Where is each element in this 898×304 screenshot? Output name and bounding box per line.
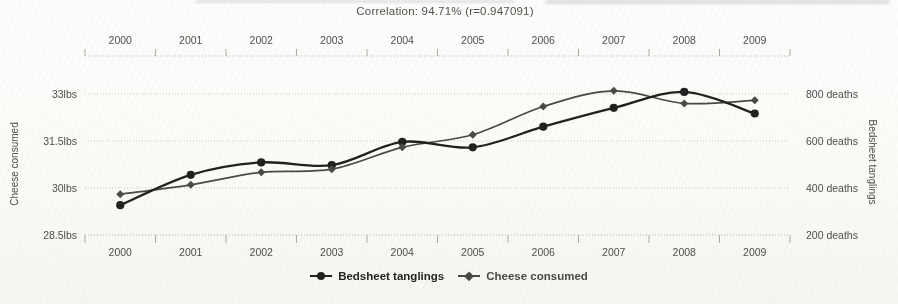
left-axis-title: Cheese consumed	[9, 122, 20, 205]
left-axis-tick-label: 28.5lbs	[43, 229, 77, 241]
x-tick-label-top: 2007	[602, 34, 626, 46]
data-point-diamond	[116, 190, 124, 198]
chart-legend: Bedsheet tanglings Cheese consumed	[0, 270, 898, 282]
x-tick-label-bottom: 2006	[532, 246, 556, 258]
diamond-marker-icon	[458, 271, 480, 281]
right-axis-tick-label: 600 deaths	[806, 135, 858, 147]
data-point-circle	[187, 171, 195, 179]
data-point-diamond	[680, 99, 688, 107]
right-axis-tick-label: 400 deaths	[806, 182, 858, 194]
x-tick-label-bottom: 2007	[602, 246, 626, 258]
x-tick-label-top: 2008	[673, 34, 697, 46]
left-axis-tick-label: 33lbs	[52, 88, 77, 100]
data-point-diamond	[257, 168, 265, 176]
x-tick-label-bottom: 2004	[391, 246, 415, 258]
x-tick-label-bottom: 2008	[673, 246, 697, 258]
x-tick-label-top: 2006	[532, 34, 556, 46]
left-axis-tick-label: 31.5lbs	[43, 135, 77, 147]
series-line-cheese-consumed	[120, 91, 755, 194]
data-point-circle	[610, 104, 618, 112]
circle-marker-icon	[310, 271, 332, 281]
chart-photo: Correlation: 94.71% (r=0.947091) 2000200…	[0, 0, 898, 304]
x-tick-label-top: 2005	[461, 34, 485, 46]
x-tick-label-top: 2001	[179, 34, 203, 46]
x-tick-label-top: 2003	[320, 34, 344, 46]
correlation-line-chart: 2000200020012001200220022003200320042004…	[0, 0, 898, 304]
series-line-bedsheet-tanglings	[120, 92, 755, 205]
x-tick-label-bottom: 2001	[179, 246, 203, 258]
x-tick-label-bottom: 2003	[320, 246, 344, 258]
legend-item-bedsheet-tanglings: Bedsheet tanglings	[310, 270, 444, 282]
legend-label: Cheese consumed	[486, 270, 588, 282]
legend-label: Bedsheet tanglings	[338, 270, 444, 282]
legend-item-cheese-consumed: Cheese consumed	[458, 270, 588, 282]
x-tick-label-top: 2002	[250, 34, 274, 46]
data-point-circle	[751, 109, 759, 117]
data-point-circle	[257, 158, 265, 166]
data-point-circle	[680, 88, 688, 96]
data-point-diamond	[469, 131, 477, 139]
x-tick-label-top: 2009	[743, 34, 767, 46]
data-point-circle	[469, 143, 477, 151]
right-axis-tick-label: 800 deaths	[806, 88, 858, 100]
x-tick-label-bottom: 2002	[250, 246, 274, 258]
x-tick-label-top: 2000	[109, 34, 133, 46]
left-axis-tick-label: 30lbs	[52, 182, 77, 194]
data-point-circle	[539, 123, 547, 131]
data-point-diamond	[539, 103, 547, 111]
data-point-diamond	[751, 96, 759, 104]
x-tick-label-top: 2004	[391, 34, 415, 46]
x-tick-label-bottom: 2005	[461, 246, 485, 258]
right-axis-title: Bedsheet tanglings	[867, 119, 878, 204]
x-tick-label-bottom: 2009	[743, 246, 767, 258]
x-tick-label-bottom: 2000	[109, 246, 133, 258]
data-point-circle	[116, 201, 124, 209]
right-axis-tick-label: 200 deaths	[806, 229, 858, 241]
